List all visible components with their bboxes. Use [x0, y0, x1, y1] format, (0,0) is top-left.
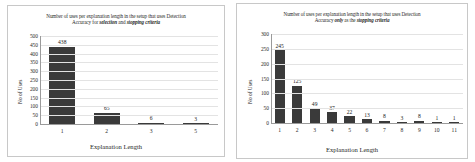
- y-tick-label: 150: [261, 76, 269, 82]
- y-tick-label: 250: [30, 77, 38, 83]
- bar-value-label: 3: [400, 115, 403, 121]
- bar: [275, 50, 285, 123]
- y-axis-line: [271, 34, 272, 123]
- bar-value-label: 13: [364, 112, 370, 118]
- y-tick-label: 0: [35, 121, 38, 127]
- x-tick-label: 10: [434, 127, 440, 133]
- gridline: [40, 80, 218, 81]
- y-tick-label: 0: [266, 120, 269, 126]
- bar-value-label: 6: [150, 115, 153, 121]
- y-tick-label: 50: [264, 105, 269, 111]
- x-tick-label: 4: [331, 127, 334, 133]
- x-tick-label: 5: [194, 128, 197, 134]
- x-tick-label: 3: [313, 127, 316, 133]
- x-tick-label: 5: [348, 127, 351, 133]
- gridline: [40, 98, 218, 99]
- y-axis-ticks-right: 300250200150100500: [255, 4, 269, 158]
- figure-container: Number of uses per explanation length in…: [0, 0, 475, 162]
- bar: [327, 112, 337, 123]
- y-tick-label: 250: [261, 46, 269, 52]
- x-tick-label: 7: [383, 127, 386, 133]
- gridline: [271, 93, 463, 94]
- bar: [310, 108, 320, 123]
- gridline: [40, 36, 218, 37]
- bar: [49, 47, 75, 124]
- y-tick-label: 400: [30, 51, 38, 57]
- gridline: [40, 45, 218, 46]
- y-tick-label: 50: [33, 112, 38, 118]
- x-axis-title-left: Explanation Length: [8, 143, 224, 150]
- y-axis-title-left: No of Uses: [17, 80, 23, 104]
- y-tick-label: 300: [30, 68, 38, 74]
- y-tick-label: 450: [30, 42, 38, 48]
- gridline: [271, 79, 463, 80]
- gridline: [40, 115, 218, 116]
- y-tick-label: 500: [30, 33, 38, 39]
- gridline: [40, 106, 218, 107]
- bar-value-label: 8: [418, 113, 421, 119]
- x-tick-label: 8: [401, 127, 404, 133]
- bar-value-label: 8: [383, 113, 386, 119]
- y-axis-title-right: No of Uses: [247, 80, 253, 104]
- y-tick-label: 200: [261, 61, 269, 67]
- bar-value-label: 245: [276, 43, 284, 49]
- bar-value-label: 3: [194, 116, 197, 122]
- gridline: [40, 124, 218, 125]
- gridline: [271, 34, 463, 35]
- y-tick-label: 350: [30, 59, 38, 65]
- chart-panel-right: Number of uses per explanation length in…: [236, 3, 468, 159]
- y-axis-ticks-left: 500450400350300250200150100500: [24, 6, 38, 156]
- y-tick-label: 150: [30, 95, 38, 101]
- y-axis-line: [40, 36, 41, 124]
- bar: [292, 86, 302, 123]
- gridline: [40, 71, 218, 72]
- bar-value-label: 49: [312, 101, 318, 107]
- x-tick-label: 11: [452, 127, 457, 133]
- x-tick-label: 1: [61, 128, 64, 134]
- gridline: [271, 123, 463, 124]
- x-tick-label: 2: [105, 128, 108, 134]
- gridline: [40, 89, 218, 90]
- bar-value-label: 1: [453, 115, 456, 121]
- gridline: [271, 49, 463, 50]
- bar-value-label: 1: [435, 115, 438, 121]
- chart-panel-left: Number of uses per explanation length in…: [7, 5, 225, 157]
- y-tick-label: 300: [261, 31, 269, 37]
- x-tick-label: 6: [366, 127, 369, 133]
- gridline: [40, 62, 218, 63]
- plot-left: No of Uses 50045040035030025020015010050…: [8, 6, 224, 156]
- x-tick-label: 3: [150, 128, 153, 134]
- x-axis-title-right: Explanation Length: [237, 146, 467, 153]
- x-tick-label: 9: [418, 127, 421, 133]
- x-tick-label: 1: [278, 127, 281, 133]
- bar-value-label: 22: [347, 109, 353, 115]
- y-tick-label: 100: [261, 90, 269, 96]
- y-tick-label: 200: [30, 86, 38, 92]
- gridline: [40, 54, 218, 55]
- gridline: [271, 108, 463, 109]
- y-tick-label: 100: [30, 103, 38, 109]
- x-tick-label: 2: [296, 127, 299, 133]
- gridline: [271, 64, 463, 65]
- plot-right: No of Uses 300250200150100500 2451254937…: [237, 4, 467, 158]
